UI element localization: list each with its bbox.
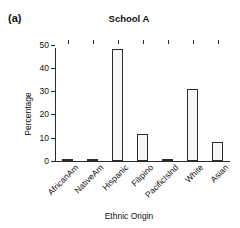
bar — [187, 89, 199, 161]
bar — [62, 159, 74, 161]
x-tick-label: AfricanAm — [46, 163, 80, 197]
bar-series — [55, 40, 230, 161]
x-tick-label: White — [183, 163, 204, 184]
x-tick-label: Hispanic — [100, 163, 129, 192]
bar — [162, 159, 174, 161]
bar — [112, 49, 124, 161]
bar — [212, 142, 224, 161]
x-tick-label: Asian — [208, 163, 229, 184]
x-axis-title: Ethnic Origin — [0, 211, 240, 221]
y-axis-title: Percentage — [23, 92, 33, 135]
plot-area: 01020304050 — [55, 40, 230, 162]
figure-panel: (a) School A Percentage Ethnic Origin 01… — [0, 0, 240, 228]
x-axis-category-labels: AfricanAmNativeAmHispanicFilipinoPacific… — [55, 163, 230, 209]
y-tick-mark — [51, 161, 55, 162]
y-tick-label: 0 — [44, 157, 49, 166]
bar — [87, 159, 99, 161]
y-tick-label: 30 — [40, 87, 49, 96]
bar — [137, 134, 149, 161]
x-axis-line — [55, 161, 230, 162]
y-tick-label: 40 — [40, 64, 49, 73]
chart-title: School A — [0, 13, 240, 24]
y-tick-label: 20 — [40, 110, 49, 119]
y-tick-label: 10 — [40, 133, 49, 142]
y-tick-label: 50 — [40, 40, 49, 49]
